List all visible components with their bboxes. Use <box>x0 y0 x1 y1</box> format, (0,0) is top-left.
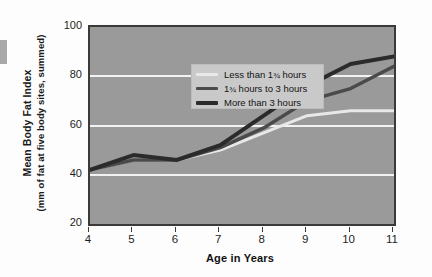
legend-item-2: More than 3 hours <box>196 96 319 109</box>
x-tick <box>88 227 89 232</box>
y-tick-label: 60 <box>70 118 82 130</box>
legend-item-1: 1¾ hours to 3 hours <box>196 82 319 95</box>
x-tick-label: 8 <box>259 233 265 245</box>
legend-swatch-more-than-3-hours <box>196 101 218 105</box>
y-axis-title-line2: (mm of fat at five body sites, summed) <box>34 35 47 212</box>
x-tick-label: 7 <box>215 233 221 245</box>
y-tick-label: 20 <box>70 216 82 228</box>
page-edge-mark <box>0 40 7 64</box>
x-tick-label: 9 <box>302 233 308 245</box>
legend-item-0: Less than 1¾ hours <box>196 68 319 81</box>
x-tick <box>262 227 263 232</box>
fraction-glyph-0: ¾ <box>273 70 280 81</box>
y-axis-title-line1: Mean Body Fat Index <box>21 70 33 177</box>
legend-label-1: 1¾ hours to 3 hours <box>224 83 307 95</box>
x-tick <box>175 227 176 232</box>
chart-legend: Less than 1¾ hours 1¾ hours to 3 hours M… <box>191 64 324 109</box>
y-axis-tick-labels: 10080604020 <box>52 0 86 277</box>
x-tick <box>392 227 393 232</box>
x-tick <box>305 227 306 232</box>
y-tick-label: 100 <box>64 19 82 31</box>
x-tick-label: 5 <box>128 233 134 245</box>
y-tick-label: 80 <box>70 68 82 80</box>
x-tick <box>131 227 132 232</box>
x-tick-label: 4 <box>85 233 91 245</box>
x-tick <box>349 227 350 232</box>
series-lines <box>90 27 394 224</box>
x-tick <box>218 227 219 232</box>
x-axis-tick-labels: 4567891011 <box>88 233 392 251</box>
y-tick-label: 40 <box>70 167 82 179</box>
x-tick-label: 10 <box>342 233 355 245</box>
x-axis-title: Age in Years <box>88 252 392 264</box>
y-axis-title: Mean Body Fat Index (mm of fat at five b… <box>14 18 54 228</box>
chart-figure: Mean Body Fat Index (mm of fat at five b… <box>0 0 432 277</box>
x-tick-label: 11 <box>386 233 398 245</box>
legend-swatch-less-than-1-3-4-hours <box>196 73 218 76</box>
fraction-glyph-1: ¾ <box>229 84 236 95</box>
legend-label-0: Less than 1¾ hours <box>224 69 306 81</box>
legend-label-2: More than 3 hours <box>224 97 301 108</box>
x-tick-label: 6 <box>172 233 178 245</box>
legend-swatch-1-3-4-to-3-hours <box>196 87 218 91</box>
plot-area: Less than 1¾ hours 1¾ hours to 3 hours M… <box>88 25 396 226</box>
